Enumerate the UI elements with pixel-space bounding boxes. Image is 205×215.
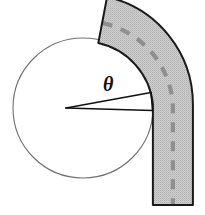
figure-canvas xyxy=(0,0,205,215)
angle-ray-lower xyxy=(66,108,153,111)
angle-rays xyxy=(66,93,153,111)
geometry-figure: θ xyxy=(0,0,205,215)
angle-label-theta: θ xyxy=(103,74,113,94)
band-shape xyxy=(98,0,193,205)
curved-band xyxy=(98,0,193,207)
